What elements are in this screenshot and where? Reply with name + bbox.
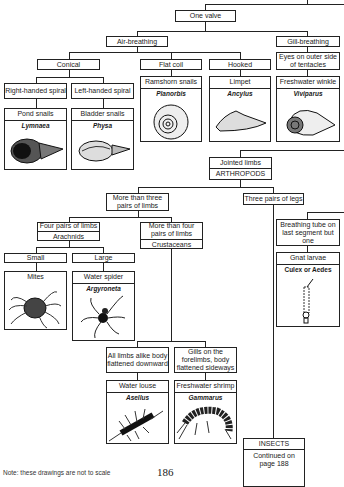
node-label: Gills on the forelimbs, body flattened s…: [175, 347, 236, 373]
conical-node: Conical: [37, 59, 100, 70]
node-label: Three pairs of legs: [244, 194, 303, 204]
card-title: INSECTS: [244, 439, 304, 450]
pond-snail-card: Pond snails Lymnaea: [4, 108, 67, 170]
jointed-limbs-node: Jointed limbs ARTHROPODS: [209, 157, 272, 180]
node-label: Jointed limbs: [210, 158, 271, 168]
connector: [103, 99, 104, 108]
connector: [240, 180, 241, 187]
more-than-four-node: More than four pairs of limbs Crustacean…: [140, 222, 203, 249]
connector: [240, 150, 241, 157]
connector: [69, 217, 172, 218]
pond-snail-drawing-icon: [5, 133, 66, 167]
card-title: Water louse: [107, 381, 168, 393]
card-title: Ramshorn snails: [141, 77, 201, 89]
card-latin: Argyroneta: [73, 284, 134, 293]
connector: [240, 52, 241, 59]
ramshorn-card: Ramshorn snails Planorbis: [140, 76, 202, 142]
winkle-card: Freshwater winkle Viviparus: [276, 76, 340, 142]
connector: [307, 212, 344, 213]
node-label: Left-handed spiral: [72, 86, 133, 96]
node-label: Small: [5, 253, 66, 263]
connector: [205, 4, 344, 5]
air-breathing-node: Air-breathing: [106, 36, 168, 47]
more-than-three-node: More than three pairs of limbs: [106, 193, 169, 211]
node-label: Right-handed spiral: [5, 86, 66, 96]
freshwater-shrimp-drawing-icon: [175, 403, 236, 443]
card-latin: Culex or Aedes: [277, 265, 339, 274]
hooked-node: Hooked: [209, 59, 271, 70]
card-title: Mites: [5, 272, 66, 281]
card-title: Water spider: [73, 272, 134, 284]
insects-node: INSECTS Continued on page 188: [243, 438, 305, 487]
mites-card: Mites: [4, 271, 67, 330]
freshwater-shrimp-card: Freshwater shrimp Gammarus: [174, 380, 237, 444]
card-latin: Lymnaea: [5, 121, 66, 130]
node-label: Crustaceans: [141, 239, 202, 250]
card-latin: Physa: [72, 121, 133, 130]
card-title: Limpet: [210, 77, 270, 89]
flat-coil-node: Flat coil: [140, 59, 202, 70]
node-label: All limbs alike body flattened downward: [107, 351, 168, 369]
connector: [103, 263, 104, 271]
all-limbs-alike-node: All limbs alike body flattened downward: [106, 347, 169, 373]
water-spider-drawing-icon: [73, 294, 134, 340]
connector: [36, 247, 104, 248]
node-label: Hooked: [210, 60, 270, 70]
water-louse-drawing-icon: [107, 403, 168, 443]
connector: [137, 373, 138, 380]
bladder-snail-drawing-icon: [72, 133, 133, 167]
large-node: Large: [72, 253, 135, 263]
continued-link[interactable]: Continued on page 188: [244, 450, 304, 470]
node-label: More than four pairs of limbs: [141, 221, 202, 239]
card-title: Gnat larvae: [277, 253, 339, 265]
card-title: Freshwater shrimp: [175, 381, 236, 393]
connector: [171, 249, 172, 341]
three-pairs-node: Three pairs of legs: [243, 193, 304, 205]
card-title: Freshwater winkle: [277, 77, 339, 89]
node-label: Arachnids: [38, 231, 99, 242]
connector: [36, 77, 103, 78]
connector: [171, 52, 172, 59]
winkle-drawing-icon: [277, 101, 339, 141]
left-handed-node: Left-handed spiral: [71, 83, 134, 99]
scale-note: Note: these drawings are not to scale: [3, 469, 110, 476]
connector: [137, 341, 206, 342]
node-label: Large: [73, 253, 134, 263]
connector: [36, 99, 37, 108]
node-label: Eyes on outer side of tentacles: [277, 52, 339, 70]
node-label: Four pairs of limbs: [38, 221, 99, 231]
gnat-larva-drawing-icon: [277, 275, 339, 325]
gill-breathing-node: Gill-breathing: [276, 36, 340, 47]
connector: [69, 52, 241, 53]
node-label: Breathing tube on last segment but one: [277, 220, 339, 246]
connector: [36, 263, 37, 271]
connector: [205, 22, 206, 31]
node-label: Gill-breathing: [277, 37, 339, 47]
gills-forelimbs-node: Gills on the forelimbs, body flattened s…: [174, 347, 237, 373]
connector: [240, 150, 344, 151]
gnat-larvae-card: Gnat larvae Culex or Aedes: [276, 252, 340, 327]
connector: [69, 70, 70, 77]
small-node: Small: [4, 253, 67, 263]
page-number: 186: [157, 466, 174, 478]
node-label: Air-breathing: [107, 37, 167, 47]
connector: [69, 52, 70, 59]
four-pairs-node: Four pairs of limbs Arachnids: [37, 222, 100, 241]
water-spider-card: Water spider Argyroneta: [72, 271, 135, 341]
limpet-drawing-icon: [210, 101, 270, 141]
breathing-tube-node: Breathing tube on last segment but one: [276, 219, 340, 246]
connector: [307, 212, 308, 219]
card-latin: Ancylus: [210, 89, 270, 98]
card-latin: Viviparus: [277, 89, 339, 98]
node-label: ARTHROPODS: [210, 168, 271, 179]
node-label: Flat coil: [141, 60, 201, 70]
card-latin: Asellus: [107, 393, 168, 402]
card-title: Pond snails: [5, 109, 66, 121]
water-louse-card: Water louse Asellus: [106, 380, 169, 444]
bladder-snail-card: Bladder snails Physa: [71, 108, 134, 170]
connector: [307, 69, 308, 76]
limpet-card: Limpet Ancylus: [209, 76, 271, 142]
connector: [138, 187, 274, 188]
node-label: One valve: [176, 11, 235, 21]
connector: [137, 31, 308, 32]
